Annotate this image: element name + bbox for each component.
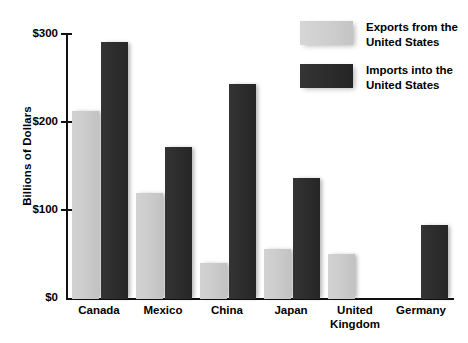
x-category-label-japan: Japan: [260, 303, 322, 317]
y-axis-title: Billions of Dollars: [21, 46, 33, 266]
legend-label-exports: Exports from the United States: [366, 20, 466, 49]
bar-china-exports[interactable]: [200, 263, 227, 299]
bar-germany-imports[interactable]: [421, 225, 448, 299]
bar-group-canada: [72, 33, 130, 299]
bar-group-mexico: [136, 33, 194, 299]
dark-gray-swatch: [300, 64, 353, 88]
bar-chart: Billions of Dollars $300 $200 $100 $0: [0, 0, 468, 343]
bar-united-kingdom-exports[interactable]: [328, 254, 355, 299]
x-category-label-united-kingdom: United Kingdom: [322, 303, 388, 331]
bar-group-china: [200, 33, 258, 299]
x-category-label-canada: Canada: [68, 303, 130, 317]
bar-mexico-exports[interactable]: [136, 193, 163, 299]
bar-japan-exports[interactable]: [264, 249, 291, 299]
bar-japan-imports[interactable]: [293, 178, 320, 300]
bar-china-imports[interactable]: [229, 84, 256, 300]
y-tick-label-300: $300: [0, 27, 58, 39]
bar-mexico-imports[interactable]: [165, 147, 192, 299]
y-tick-label-0: $0: [0, 291, 58, 303]
light-gray-swatch: [300, 21, 353, 45]
y-tick-label-100: $100: [0, 203, 58, 215]
y-tick-label-200: $200: [0, 115, 58, 127]
x-category-label-china: China: [196, 303, 258, 317]
bar-canada-exports[interactable]: [72, 111, 99, 299]
legend-label-imports: Imports into the United States: [366, 63, 466, 92]
bar-canada-imports[interactable]: [101, 42, 128, 299]
x-category-label-mexico: Mexico: [132, 303, 194, 317]
x-category-label-germany: Germany: [388, 303, 454, 317]
